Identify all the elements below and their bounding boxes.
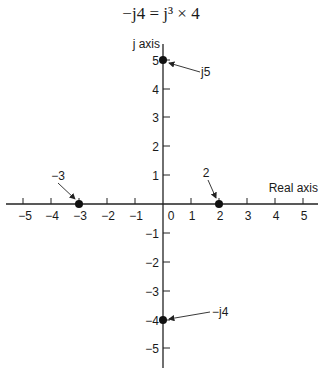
- x-tick-label: −3: [73, 209, 87, 223]
- y-tick-label: −4: [145, 314, 159, 328]
- label-minus-3: −3: [51, 169, 65, 183]
- y-tick-label: −2: [145, 256, 159, 270]
- point-j5: [159, 56, 167, 64]
- point-minus-j4: [159, 316, 167, 324]
- x-tick-label: 0: [168, 209, 175, 223]
- x-tick-label: 1: [189, 209, 196, 223]
- x-tick-label: 2: [217, 209, 224, 223]
- label-minus-j4: −j4: [212, 305, 229, 319]
- x-tick-label: −4: [45, 209, 59, 223]
- y-tick-label: 4: [152, 83, 159, 97]
- real-axis-label: Real axis: [269, 181, 318, 195]
- y-tick-labels: 5 4 3 2 1 −1 −2 −3 −4 −5: [145, 54, 159, 356]
- label-j5: j5: [200, 65, 211, 79]
- y-tick-label: 3: [152, 111, 159, 125]
- point-minus-3: [75, 200, 83, 208]
- complex-plane-diagram: −5 −4 −3 −2 −1 0 1 2 3 4 5 5 4 3 2 1 −1 …: [0, 0, 322, 376]
- x-tick-label: −5: [18, 209, 32, 223]
- y-tick-label: 5: [152, 54, 159, 68]
- arrow-minus-j4: [169, 312, 210, 319]
- y-tick-label: 1: [152, 169, 159, 183]
- y-tick-label: 2: [152, 140, 159, 154]
- arrow-2: [208, 180, 216, 198]
- point-2: [215, 200, 223, 208]
- y-tick-label: −3: [145, 285, 159, 299]
- x-tick-label: −1: [129, 209, 143, 223]
- x-tick-label: 5: [301, 209, 308, 223]
- y-tick-label: −5: [145, 342, 159, 356]
- label-2: 2: [203, 166, 210, 180]
- j-axis-label: j axis: [132, 37, 160, 51]
- x-tick-label: −2: [101, 209, 115, 223]
- x-tick-label: 3: [245, 209, 252, 223]
- y-tick-label: −1: [145, 227, 159, 241]
- x-tick-label: 4: [273, 209, 280, 223]
- arrow-minus-3: [58, 183, 75, 199]
- arrow-j5: [169, 63, 200, 72]
